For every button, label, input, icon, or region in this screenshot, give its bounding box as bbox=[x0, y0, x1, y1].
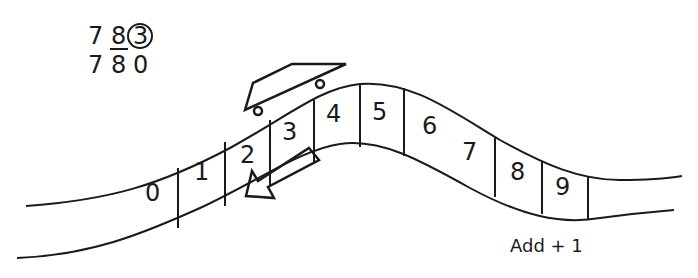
cell-5: 5 bbox=[372, 98, 387, 126]
digit-0-bottom: 0 bbox=[133, 51, 148, 79]
digit-8-top: 8 bbox=[111, 22, 126, 50]
track-digits: 0 1 2 3 4 5 6 7 8 9 bbox=[145, 98, 570, 207]
cell-4: 4 bbox=[326, 100, 341, 128]
cell-1: 1 bbox=[194, 158, 209, 186]
cell-7: 7 bbox=[462, 138, 477, 166]
cell-9: 9 bbox=[555, 173, 570, 201]
cell-6: 6 bbox=[422, 112, 437, 140]
digit-8-bottom: 8 bbox=[111, 51, 126, 79]
digit-7-bottom: 7 bbox=[88, 51, 103, 79]
left-down-arrow-icon bbox=[246, 148, 319, 198]
number-track bbox=[17, 84, 682, 258]
problem-numbers: 7 8 3 7 8 0 bbox=[88, 22, 152, 79]
digit-7-top: 7 bbox=[88, 22, 103, 50]
cell-8: 8 bbox=[510, 158, 525, 186]
rounding-diagram: 7 8 3 7 8 0 0 1 2 bbox=[0, 0, 698, 278]
cell-2: 2 bbox=[240, 141, 255, 169]
track-top-edge bbox=[26, 84, 682, 206]
cell-3: 3 bbox=[282, 118, 297, 146]
caption-add-one: Add + 1 bbox=[510, 235, 583, 256]
cell-0: 0 bbox=[145, 179, 160, 207]
